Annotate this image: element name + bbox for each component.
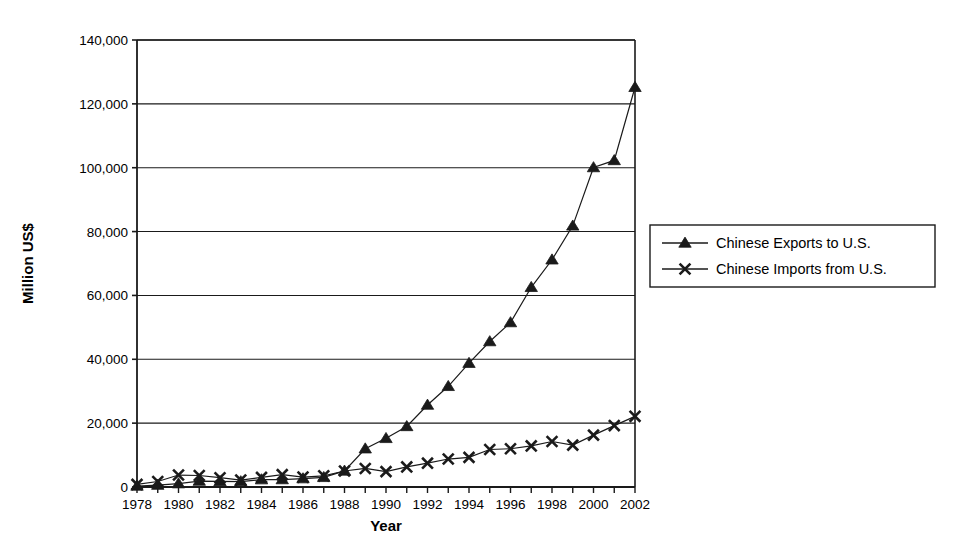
chart-container: 020,00040,00060,00080,000100,000120,0001…: [0, 0, 953, 547]
data-point-exports: [608, 155, 620, 165]
data-point-imports: [567, 440, 578, 451]
legend-label-1: Chinese Imports from U.S.: [716, 261, 887, 277]
data-point-imports: [609, 420, 620, 431]
x-tick-label: 1980: [163, 497, 193, 512]
series-line-exports: [137, 87, 635, 486]
data-point-imports: [588, 430, 599, 441]
x-axis-title: Year: [370, 517, 402, 534]
y-axis-title: Million US$: [19, 222, 36, 303]
x-tick-label: 1996: [495, 497, 525, 512]
data-point-exports: [587, 162, 599, 172]
data-point-exports: [629, 81, 641, 91]
x-tick-label: 1978: [122, 497, 152, 512]
y-tick-label: 60,000: [87, 288, 128, 303]
y-tick-label: 100,000: [79, 161, 128, 176]
x-tick-label: 1998: [537, 497, 567, 512]
x-tick-label: 1988: [329, 497, 359, 512]
x-tick-label: 2000: [578, 497, 608, 512]
x-tick-label: 1986: [288, 497, 318, 512]
series-line-imports: [137, 416, 635, 484]
data-point-exports: [359, 443, 371, 453]
y-tick-label: 140,000: [79, 33, 128, 48]
data-point-imports: [401, 462, 412, 473]
y-tick-label: 20,000: [87, 416, 128, 431]
data-point-exports: [504, 317, 516, 327]
line-chart: 020,00040,00060,00080,000100,000120,0001…: [0, 0, 953, 547]
y-tick-label: 40,000: [87, 352, 128, 367]
y-tick-label: 0: [120, 480, 128, 495]
data-point-exports: [380, 432, 392, 442]
data-point-imports: [547, 436, 558, 447]
x-tick-label: 1990: [371, 497, 401, 512]
y-tick-label: 80,000: [87, 225, 128, 240]
x-tick-label: 1994: [454, 497, 485, 512]
x-tick-label: 1984: [246, 497, 277, 512]
x-tick-label: 1982: [205, 497, 235, 512]
legend-label-0: Chinese Exports to U.S.: [716, 235, 871, 251]
data-point-exports: [546, 254, 558, 264]
x-tick-label: 1992: [412, 497, 442, 512]
data-point-exports: [525, 281, 537, 291]
data-point-imports: [422, 458, 433, 469]
x-tick-label: 2002: [620, 497, 650, 512]
data-point-exports: [567, 220, 579, 230]
y-tick-label: 120,000: [79, 97, 128, 112]
